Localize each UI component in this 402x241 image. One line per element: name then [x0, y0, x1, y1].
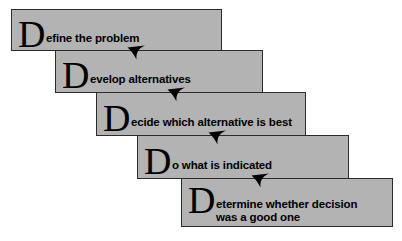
- step-label: o what is indicated: [171, 159, 272, 172]
- step-content: D etermine whether decision was a good o…: [182, 181, 357, 224]
- step-box-do-what-is-indicated[interactable]: D o what is indicated: [137, 135, 349, 179]
- step-box-determine-whether-decision-was-a-good-one[interactable]: D etermine whether decision was a good o…: [181, 178, 393, 227]
- step-label: efine the problem: [45, 32, 139, 45]
- step-dropcap: D: [62, 60, 89, 90]
- step-box-define-the-problem[interactable]: D efine the problem: [11, 9, 222, 51]
- step-dropcap: D: [103, 103, 130, 133]
- step-box-develop-alternatives[interactable]: D evelop alternatives: [55, 50, 263, 93]
- step-content: D o what is indicated: [138, 142, 272, 173]
- step-dropcap: D: [188, 185, 215, 215]
- decision-steps-diagram: D efine the problem D evelop alternative…: [0, 0, 402, 241]
- step-box-decide-which-alternative-is-best[interactable]: D ecide which alternative is best: [96, 92, 306, 136]
- step-label: etermine whether decision was a good one: [215, 198, 357, 223]
- step-dropcap: D: [144, 146, 171, 176]
- step-label: evelop alternatives: [89, 73, 191, 86]
- step-content: D evelop alternatives: [56, 56, 191, 87]
- step-content: D efine the problem: [12, 15, 139, 46]
- step-content: D ecide which alternative is best: [97, 99, 292, 130]
- step-dropcap: D: [18, 19, 45, 49]
- step-label: ecide which alternative is best: [130, 116, 292, 129]
